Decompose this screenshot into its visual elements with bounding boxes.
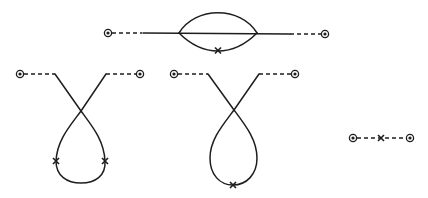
vertex-icon [104,29,111,36]
lower-arc [179,33,257,51]
vertex-icon [291,70,298,77]
solid-line [143,33,290,34]
vertex-icon [349,134,356,141]
vertex-icon [170,70,177,77]
loop-diagram-two-crosses [16,70,143,183]
simple-line-diagram [349,134,413,141]
bubble-diagram [104,13,328,54]
vertex-icon [321,30,328,37]
loop-line [208,74,259,185]
vertex-icon [16,70,23,77]
diagram-canvas [0,0,428,198]
loop-line [55,74,106,183]
vertex-icon [136,70,143,77]
vertex-icon [406,134,413,141]
loop-diagram-one-cross [170,70,298,188]
upper-arc [179,13,257,33]
